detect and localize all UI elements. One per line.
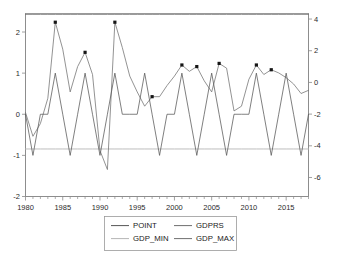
data-point-marker xyxy=(180,63,183,66)
left-tick-label: 2 xyxy=(16,28,20,37)
legend-label: POINT xyxy=(133,221,157,230)
gdp-dual-axis-line-chart: -2-1012 -6-4-2024 1980198519901995200020… xyxy=(0,0,340,261)
data-point-marker xyxy=(151,95,154,98)
right-tick-label: 2 xyxy=(314,46,318,55)
data-point-marker xyxy=(54,21,57,24)
x-tick-label: 2010 xyxy=(241,203,258,212)
left-tick-label: -2 xyxy=(13,192,20,201)
data-point-marker xyxy=(270,68,273,71)
x-tick-label: 1985 xyxy=(54,203,71,212)
right-tick-label: 4 xyxy=(314,15,318,24)
left-tick-label: -1 xyxy=(13,151,20,160)
data-point-marker xyxy=(255,63,258,66)
data-point-marker xyxy=(83,51,86,54)
data-point-marker xyxy=(195,65,198,68)
legend-label: GDP_MAX xyxy=(196,234,235,243)
right-tick-label: -4 xyxy=(314,141,321,150)
x-tick-label: 2000 xyxy=(166,203,183,212)
data-point-marker xyxy=(113,21,116,24)
chart-container: -2-1012 -6-4-2024 1980198519901995200020… xyxy=(0,0,340,261)
left-tick-label: 0 xyxy=(16,110,20,119)
chart-legend: POINTGDPRSGDP_MINGDP_MAX xyxy=(105,217,237,251)
legend-label: GDPRS xyxy=(196,221,224,230)
x-tick-label: 2005 xyxy=(203,203,220,212)
legend-label: GDP_MIN xyxy=(133,234,169,243)
x-tick-label: 1990 xyxy=(92,203,109,212)
right-tick-label: -6 xyxy=(314,173,321,182)
x-tick-label: 1980 xyxy=(17,203,34,212)
x-tick-label: 2015 xyxy=(278,203,295,212)
left-tick-label: 1 xyxy=(16,69,20,78)
data-point-marker xyxy=(218,62,221,65)
right-tick-label: 0 xyxy=(314,78,318,87)
x-tick-label: 1995 xyxy=(129,203,146,212)
right-tick-label: -2 xyxy=(314,110,321,119)
